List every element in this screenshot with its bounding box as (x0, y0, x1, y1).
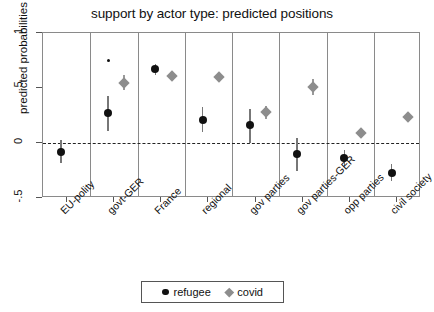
data-point-refugee (151, 65, 159, 73)
legend-item-covid: covid (226, 286, 263, 298)
panel-separator (279, 33, 280, 196)
panel-separator (327, 33, 328, 196)
y-axis-tick-label: 0 (12, 124, 24, 158)
plot-area (42, 32, 420, 197)
data-point-refugee (57, 148, 65, 156)
data-point-refugee (293, 150, 301, 158)
panel-separator (232, 33, 233, 196)
data-point-covid (213, 71, 224, 82)
y-axis-tick-label: .5 (12, 69, 24, 103)
y-axis-tick-label: 1 (12, 14, 24, 48)
panel-separator (185, 33, 186, 196)
data-point-covid (166, 70, 177, 81)
legend-label-refugee: refugee (174, 286, 211, 298)
data-point-covid (260, 107, 271, 118)
legend-item-refugee: refugee (162, 286, 211, 298)
data-point-covid (355, 127, 366, 138)
zero-reference-line (43, 143, 419, 144)
y-axis-tick (36, 87, 42, 88)
legend-label-covid: covid (237, 286, 263, 298)
y-axis-tick-label: -.5 (12, 179, 24, 213)
data-point-covid (308, 81, 319, 92)
chart-legend: refugee covid (141, 281, 284, 303)
data-point-refugee (246, 121, 254, 129)
circle-marker-icon (162, 289, 169, 296)
diamond-marker-icon (224, 287, 233, 296)
y-axis-tick (36, 32, 42, 33)
data-point-refugee (388, 169, 396, 177)
panel-separator (90, 33, 91, 196)
data-point-refugee (199, 116, 207, 124)
data-point-refugee-outlier (107, 59, 110, 62)
panel-separator (138, 33, 139, 196)
data-point-refugee (104, 109, 112, 117)
y-axis-tick (36, 197, 42, 198)
chart-title: support by actor type: predicted positio… (0, 6, 424, 21)
panel-separator (374, 33, 375, 196)
data-point-covid (402, 111, 413, 122)
y-axis-tick (36, 142, 42, 143)
data-point-covid (119, 77, 130, 88)
